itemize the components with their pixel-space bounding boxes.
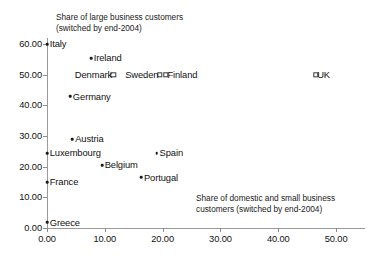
y-axis-title: Share of large business customers (switc… (56, 12, 183, 34)
y-axis-tick-label: 10.00 (2, 192, 42, 202)
x-axis-tick-label: 30.00 (195, 234, 245, 244)
dot-marker-icon (90, 57, 93, 60)
x-axis-tick-label: 40.00 (253, 234, 303, 244)
y-axis-tick-label: 50.00 (2, 70, 42, 80)
dot-marker-icon (46, 43, 49, 46)
y-axis-tick-label: 0.00 (2, 223, 42, 233)
data-point: Portugal (140, 176, 143, 179)
dot-marker-icon (156, 152, 159, 155)
x-axis-tick-label: 10.00 (80, 234, 130, 244)
data-point-label: Spain (160, 147, 183, 158)
x-axis-tick (163, 228, 164, 232)
data-point: Ireland (90, 57, 93, 60)
data-point-label: UK (317, 69, 330, 80)
data-point: UK (313, 72, 318, 77)
y-axis-tick (43, 197, 47, 198)
x-axis-tick (105, 228, 106, 232)
x-axis-tick (220, 228, 221, 232)
data-point: Sweden (157, 72, 162, 77)
x-axis-tick (336, 228, 337, 232)
data-point-label: Ireland (94, 52, 122, 63)
data-point: Spain (156, 152, 159, 155)
dot-marker-icon (46, 181, 49, 184)
data-point: Finland (163, 72, 168, 77)
data-point-label: France (50, 177, 79, 188)
dot-marker-icon (69, 95, 72, 98)
data-point: Austria (71, 138, 74, 141)
y-axis-tick (43, 136, 47, 137)
data-point-label: Denmark (75, 69, 112, 80)
plot-area: 0.0010.0020.0030.0040.0050.0060.000.0010… (47, 38, 365, 228)
data-point-label: Luxembourg (50, 147, 101, 158)
data-point-label: Belgium (105, 160, 138, 171)
x-axis-tick (278, 228, 279, 232)
x-axis-tick (47, 228, 48, 232)
y-axis-tick (43, 75, 47, 76)
data-point-label: Sweden (125, 69, 158, 80)
data-point: Germany (69, 95, 72, 98)
data-point: Italy (46, 43, 49, 46)
y-axis-tick (43, 167, 47, 168)
data-point: Belgium (101, 164, 104, 167)
x-axis-tick-label: 0.00 (22, 234, 72, 244)
data-point-label: Greece (50, 217, 80, 228)
dot-marker-icon (71, 138, 74, 141)
x-axis-tick-label: 20.00 (138, 234, 188, 244)
data-point-label: Finland (167, 69, 197, 80)
data-point: Denmark (111, 72, 116, 77)
data-point-label: Germany (73, 91, 111, 102)
data-point: Luxembourg (46, 152, 49, 155)
dot-marker-icon (46, 152, 49, 155)
data-point: Greece (46, 221, 49, 224)
y-axis-tick-label: 20.00 (2, 162, 42, 172)
y-axis-tick-label: 30.00 (2, 131, 42, 141)
data-point-label: Portugal (144, 172, 178, 183)
data-point: France (46, 181, 49, 184)
dot-marker-icon (46, 221, 49, 224)
scatter-chart: Share of large business customers (switc… (0, 0, 376, 259)
data-point-label: Austria (75, 134, 103, 145)
y-axis-tick-label: 60.00 (2, 39, 42, 49)
dot-marker-icon (101, 164, 104, 167)
dot-marker-icon (140, 176, 143, 179)
y-axis-tick-label: 40.00 (2, 100, 42, 110)
data-point-label: Italy (50, 39, 67, 50)
x-axis-tick-label: 50.00 (311, 234, 361, 244)
y-axis-tick (43, 105, 47, 106)
